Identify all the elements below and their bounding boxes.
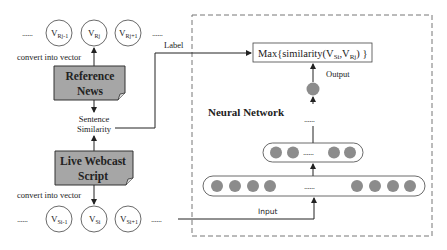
neural-network-title: Neural Network — [208, 106, 285, 118]
reference-news-box: Reference News — [54, 66, 125, 100]
input-connector — [178, 198, 314, 219]
svg-text:......: ...... — [304, 181, 315, 191]
similarity-label-line2: Similarity — [77, 124, 112, 134]
output-label: Output — [326, 69, 350, 79]
label-text: Label — [164, 40, 184, 50]
output-node — [307, 83, 320, 96]
diagram-canvas: ...... VRj-1 VRj VRj+1 ...... convert in… — [0, 0, 447, 250]
bottom-convert-caption: convert into vector — [17, 190, 81, 200]
svg-text:......: ...... — [303, 147, 314, 157]
svg-text:Reference: Reference — [66, 70, 115, 82]
live-webcast-script-box: Live Webcast Script — [55, 151, 133, 185]
hidden-dots: ...... — [304, 114, 315, 124]
input-label: Input — [258, 207, 277, 216]
input-layer: ...... — [203, 176, 425, 196]
top-convert-caption: convert into vector — [17, 52, 81, 62]
bottom-leading-dots: ...... — [17, 214, 28, 224]
max-similarity-box: Max{similarity(VSi,VRj) } — [253, 43, 372, 62]
top-trailing-dots: ...... — [152, 28, 163, 38]
top-vector-row: ...... VRj-1 VRj VRj+1 ...... — [22, 20, 163, 46]
svg-text:Script: Script — [78, 170, 108, 183]
svg-text:Live Webcast: Live Webcast — [60, 155, 126, 167]
similarity-label-line1: Sentence — [79, 114, 110, 124]
svg-text:News: News — [77, 85, 104, 97]
bottom-trailing-dots: ...... — [151, 214, 162, 224]
middle-layer: ...... — [263, 143, 363, 162]
bottom-vector-row: ...... VSi-1 VSi VSi+1 ...... — [17, 206, 162, 232]
top-leading-dots: ...... — [22, 28, 33, 38]
